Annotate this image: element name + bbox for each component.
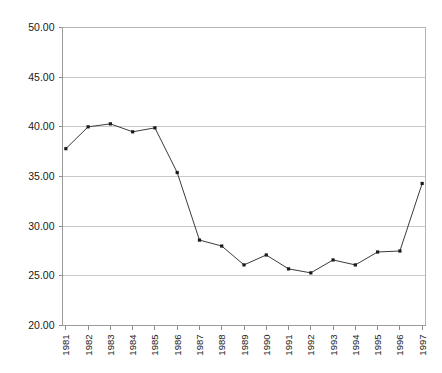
data-point-marker <box>87 125 90 128</box>
data-point-marker <box>242 263 245 266</box>
y-axis-tick-label: 40.00 <box>28 120 54 132</box>
data-point-marker <box>309 271 312 274</box>
x-axis-tick-label: 1991 <box>283 335 294 356</box>
data-point-marker <box>153 126 156 129</box>
x-axis-tick-label: 1989 <box>239 335 250 356</box>
y-axis-tick-label: 25.00 <box>28 269 54 281</box>
y-axis-tick-label: 50.00 <box>28 21 54 33</box>
data-point-marker <box>198 238 201 241</box>
x-axis-tick-label: 1986 <box>172 335 183 356</box>
x-axis-tick-label: 1988 <box>216 335 227 356</box>
x-axis-tick-label: 1996 <box>394 335 405 356</box>
x-axis-tick-label: 1985 <box>149 335 160 356</box>
data-point-marker <box>64 147 67 150</box>
data-point-marker <box>376 250 379 253</box>
x-axis-tick-label: 1981 <box>60 335 71 356</box>
x-axis-tick-label: 1987 <box>194 335 205 356</box>
data-point-marker <box>109 122 112 125</box>
x-axis-tick-label: 1982 <box>83 335 94 356</box>
x-axis-tick-label: 1995 <box>372 335 383 356</box>
data-point-marker <box>354 263 357 266</box>
data-point-marker <box>220 244 223 247</box>
x-axis-tick-label: 1994 <box>350 335 361 356</box>
data-point-marker <box>421 182 424 185</box>
line-chart: 50.0045.0040.0035.0030.0025.0020.0019811… <box>0 0 442 373</box>
data-point-marker <box>176 171 179 174</box>
data-point-marker <box>287 267 290 270</box>
data-series-line <box>66 124 422 273</box>
data-point-marker <box>131 130 134 133</box>
chart-canvas: 50.0045.0040.0035.0030.0025.0020.0019811… <box>0 0 442 373</box>
data-point-marker <box>265 253 268 256</box>
data-point-marker <box>398 249 401 252</box>
x-axis-tick-label: 1984 <box>127 335 138 356</box>
x-axis-tick-label: 1992 <box>305 335 316 356</box>
x-axis-tick-label: 1993 <box>328 335 339 356</box>
y-axis-tick-label: 35.00 <box>28 170 54 182</box>
y-axis-tick-label: 30.00 <box>28 220 54 232</box>
x-axis-tick-label: 1997 <box>417 335 428 356</box>
y-axis-tick-label: 45.00 <box>28 71 54 83</box>
y-axis-tick-label: 20.00 <box>28 319 54 331</box>
x-axis-tick-label: 1983 <box>105 335 116 356</box>
x-axis-tick-label: 1990 <box>261 335 272 356</box>
data-point-marker <box>331 258 334 261</box>
